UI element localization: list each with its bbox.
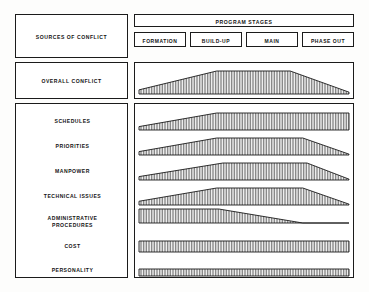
- program-stages-header-box: PROGRAM STAGES: [134, 14, 354, 27]
- source-label-administrative-procedures-line2: PROCEDURES: [22, 222, 123, 230]
- source-conflict-plots-box: [134, 103, 354, 278]
- source-label-cost: COST: [22, 243, 123, 251]
- source-conflict-area-shapes: [135, 104, 353, 277]
- source-label-priorities: PRIORITIES: [22, 143, 123, 151]
- sources-of-conflict-header-box: SOURCES OF CONFLICT: [15, 14, 128, 58]
- overall-conflict-area-shape: [135, 63, 353, 98]
- source-label-schedules: SCHEDULES: [22, 118, 123, 126]
- overall-conflict-label: OVERALL CONFLICT: [16, 78, 127, 85]
- stage-box-phase-out: PHASE OUT: [302, 32, 354, 47]
- stage-label-main: MAIN: [247, 38, 297, 44]
- stage-label-formation: FORMATION: [135, 38, 185, 44]
- source-label-personality: PERSONALITY: [22, 267, 123, 275]
- stage-label-phase-out: PHASE OUT: [303, 38, 353, 44]
- sources-of-conflict-title: SOURCES OF CONFLICT: [16, 34, 127, 41]
- stage-box-formation: FORMATION: [134, 32, 186, 47]
- source-label-manpower: MANPOWER: [22, 168, 123, 176]
- source-label-technical-issues: TECHNICAL ISSUES: [22, 193, 123, 201]
- overall-conflict-plot-box: [134, 62, 354, 99]
- stage-label-build-up: BUILD-UP: [191, 38, 241, 44]
- conflict-program-stage-figure: SOURCES OF CONFLICT OVERALL CONFLICT SCH…: [0, 0, 369, 292]
- stage-box-main: MAIN: [246, 32, 298, 47]
- source-labels-box: SCHEDULES PRIORITIES MANPOWER TECHNICAL …: [15, 103, 128, 278]
- overall-conflict-label-box: OVERALL CONFLICT: [15, 62, 128, 99]
- program-stages-title: PROGRAM STAGES: [135, 19, 353, 25]
- stage-box-build-up: BUILD-UP: [190, 32, 242, 47]
